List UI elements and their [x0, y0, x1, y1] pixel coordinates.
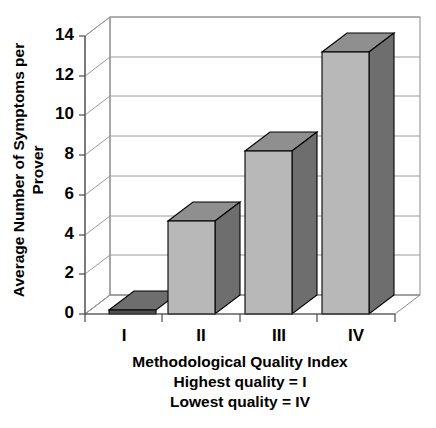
bar-front-face [245, 151, 292, 314]
caption-line-3: Lowest quality = IV [170, 393, 311, 410]
bar-side-face [215, 202, 240, 314]
y-tick-label: 2 [65, 263, 74, 282]
bar-category-II [168, 202, 240, 314]
y-axis-title-line1: Average Number of Symptoms per [10, 43, 27, 297]
caption-line-1: Methodological Quality Index [132, 353, 348, 370]
bar-front-face [322, 52, 369, 314]
y-tick-label: 0 [65, 303, 74, 322]
x-category-label: I [122, 326, 127, 345]
chart-svg: 14 12 10 8 6 4 2 0 [0, 0, 436, 428]
y-tick-label: 4 [65, 224, 75, 243]
x-category-label: IV [348, 326, 365, 345]
bar-chart-figure: 14 12 10 8 6 4 2 0 [0, 0, 436, 428]
y-tick-label: 8 [65, 144, 74, 163]
y-tick-label: 6 [65, 184, 74, 203]
bar-side-face [369, 33, 394, 314]
bar-category-III [245, 132, 317, 314]
x-category-label: III [272, 326, 286, 345]
y-axis-title-line2: Prover [29, 145, 46, 194]
x-category-label: II [196, 326, 205, 345]
y-tick-label: 10 [55, 104, 74, 123]
caption-line-2: Highest quality = I [173, 373, 306, 390]
bar-side-face [292, 132, 317, 314]
y-tick-label: 12 [55, 65, 74, 84]
bar-front-face [168, 221, 215, 314]
y-tick-label: 14 [55, 25, 74, 44]
bar-category-IV [322, 33, 394, 314]
